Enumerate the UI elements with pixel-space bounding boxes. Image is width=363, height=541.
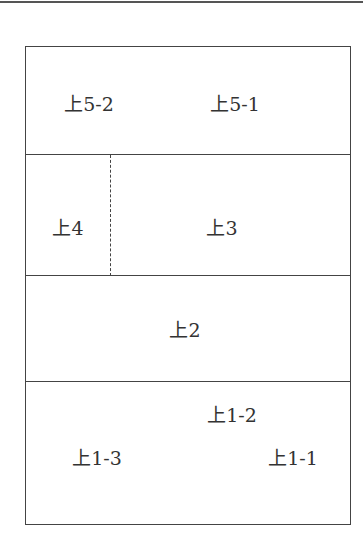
divider-row3-row2 xyxy=(25,275,351,276)
label-5-2: 上5-2 xyxy=(64,95,114,114)
label-3: 上3 xyxy=(206,219,237,238)
label-1-2: 上1-2 xyxy=(207,406,257,425)
label-1-1: 上1-1 xyxy=(268,449,318,468)
top-rule-line xyxy=(0,1,363,3)
label-1-3: 上1-3 xyxy=(72,449,122,468)
divider-row5-row4 xyxy=(25,154,351,155)
label-5-1: 上5-1 xyxy=(210,95,260,114)
divider-row2-row1 xyxy=(25,381,351,382)
label-4: 上4 xyxy=(52,219,83,238)
dashed-divider-4-3 xyxy=(110,155,111,276)
label-2: 上2 xyxy=(169,321,200,340)
